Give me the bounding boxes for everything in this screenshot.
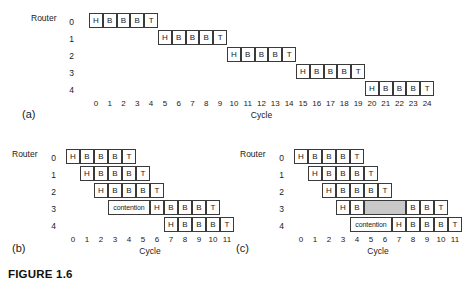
flit-cell-b: B — [336, 166, 350, 181]
flit-cell-b: B — [406, 81, 420, 96]
router-row-label-2: 2 — [42, 187, 56, 197]
flit-cell-t: T — [282, 47, 296, 62]
flit-cell-h: H — [94, 183, 108, 198]
panel-wormhole-contention: Router01234HBBBTHBBBTHBBBTcontentionHBBB… — [0, 136, 232, 261]
flit-cell-h: H — [150, 200, 164, 215]
flit-cell-b: B — [310, 64, 324, 79]
flit-cell-b: B — [336, 183, 350, 198]
flit-cell-b: B — [206, 217, 220, 232]
router-row-label-2: 2 — [60, 51, 74, 61]
flit-cell-h: H — [336, 200, 350, 215]
router-row-label-3: 3 — [270, 204, 284, 214]
flit-cell-b: B — [199, 30, 213, 45]
flit-cell-b: B — [379, 81, 393, 96]
flit-cell-b: B — [241, 47, 255, 62]
flit-cell-t: T — [206, 200, 220, 215]
flit-cell-t: T — [448, 217, 462, 232]
panel-id-c: (c) — [236, 242, 249, 254]
flit-cell-b: B — [178, 217, 192, 232]
flit-cell-b: B — [103, 13, 117, 28]
flit-cell-b: B — [324, 64, 338, 79]
figure-caption: FIGURE 1.6 — [8, 268, 73, 281]
contention-cell: contention — [108, 200, 150, 215]
flit-cell-b: B — [117, 13, 131, 28]
router-row-label-3: 3 — [42, 204, 56, 214]
flit-cell-t: T — [351, 64, 365, 79]
flit-cell-b: B — [434, 217, 448, 232]
flit-cell-t: T — [136, 166, 150, 181]
router-row-label-0: 0 — [60, 17, 74, 27]
flit-cell-t: T — [378, 183, 392, 198]
flit-cell-b: B — [122, 183, 136, 198]
flit-cell-b: B — [178, 200, 192, 215]
flit-cell-b: B — [108, 183, 122, 198]
flit-cell-b: B — [322, 166, 336, 181]
router-row-label-1: 1 — [42, 170, 56, 180]
flit-cell-h: H — [158, 30, 172, 45]
flit-cell-b: B — [80, 149, 94, 164]
flit-cell-h: H — [365, 81, 379, 96]
flit-cell-b: B — [172, 30, 186, 45]
flit-cell-b: B — [420, 200, 434, 215]
flit-cell-b: B — [255, 47, 269, 62]
router-axis-label: Router — [31, 13, 57, 23]
flit-cell-h: H — [294, 149, 308, 164]
cycle-tick-11: 11 — [446, 235, 464, 244]
router-row-label-4: 4 — [42, 221, 56, 231]
flit-cell-b: B — [336, 149, 350, 164]
flit-cell-t: T — [350, 149, 364, 164]
flit-cell-t: T — [150, 183, 164, 198]
flit-cell-b: B — [406, 217, 420, 232]
flit-cell-h: H — [66, 149, 80, 164]
flit-cell-h: H — [80, 166, 94, 181]
flit-cell-t: T — [213, 30, 227, 45]
flit-cell-b: B — [192, 200, 206, 215]
router-row-label-4: 4 — [60, 85, 74, 95]
router-row-label-3: 3 — [60, 68, 74, 78]
flit-cell-b: B — [308, 149, 322, 164]
flit-cell-h: H — [89, 13, 103, 28]
flit-cell-b: B — [364, 183, 378, 198]
flit-cell-t: T — [122, 149, 136, 164]
router-axis-label: Router — [12, 149, 38, 159]
cycle-axis-title: Cycle — [120, 246, 180, 256]
flit-cell-b: B — [136, 183, 150, 198]
flit-cell-t: T — [434, 200, 448, 215]
flit-cell-b: B — [337, 64, 351, 79]
cycle-axis-title: Cycle — [348, 246, 408, 256]
bubble-cell — [364, 200, 406, 215]
flit-cell-t: T — [364, 166, 378, 181]
flit-cell-b: B — [130, 13, 144, 28]
flit-cell-b: B — [108, 149, 122, 164]
router-row-label-0: 0 — [270, 153, 284, 163]
flit-cell-b: B — [420, 217, 434, 232]
flit-cell-b: B — [164, 200, 178, 215]
router-row-label-1: 1 — [60, 34, 74, 44]
flit-cell-b: B — [393, 81, 407, 96]
flit-cell-h: H — [227, 47, 241, 62]
flit-cell-b: B — [122, 166, 136, 181]
flit-cell-b: B — [186, 30, 200, 45]
router-row-label-1: 1 — [270, 170, 284, 180]
flit-cell-b: B — [94, 166, 108, 181]
flit-cell-b: B — [350, 183, 364, 198]
router-axis-label: Router — [240, 149, 266, 159]
flit-cell-h: H — [322, 183, 336, 198]
flit-cell-b: B — [406, 200, 420, 215]
flit-cell-b: B — [322, 149, 336, 164]
flit-cell-b: B — [268, 47, 282, 62]
flit-cell-t: T — [144, 13, 158, 28]
flit-cell-h: H — [392, 217, 406, 232]
flit-cell-h: H — [164, 217, 178, 232]
panel-store-and-forward: Router01234HBBBTHBBBTHBBBTHBBBTHBBBT0123… — [0, 0, 458, 130]
panel-id-a: (a) — [22, 108, 35, 120]
cycle-axis-title: Cycle — [232, 110, 292, 120]
flit-cell-t: T — [420, 81, 434, 96]
flit-cell-h: H — [296, 64, 310, 79]
panel-virtual-cut-through: Router01234HBBBTHBBBTHBBBTHBBBTcontentio… — [228, 136, 458, 261]
router-row-label-2: 2 — [270, 187, 284, 197]
panel-id-b: (b) — [12, 242, 25, 254]
flit-cell-b: B — [108, 166, 122, 181]
flit-cell-b: B — [350, 166, 364, 181]
